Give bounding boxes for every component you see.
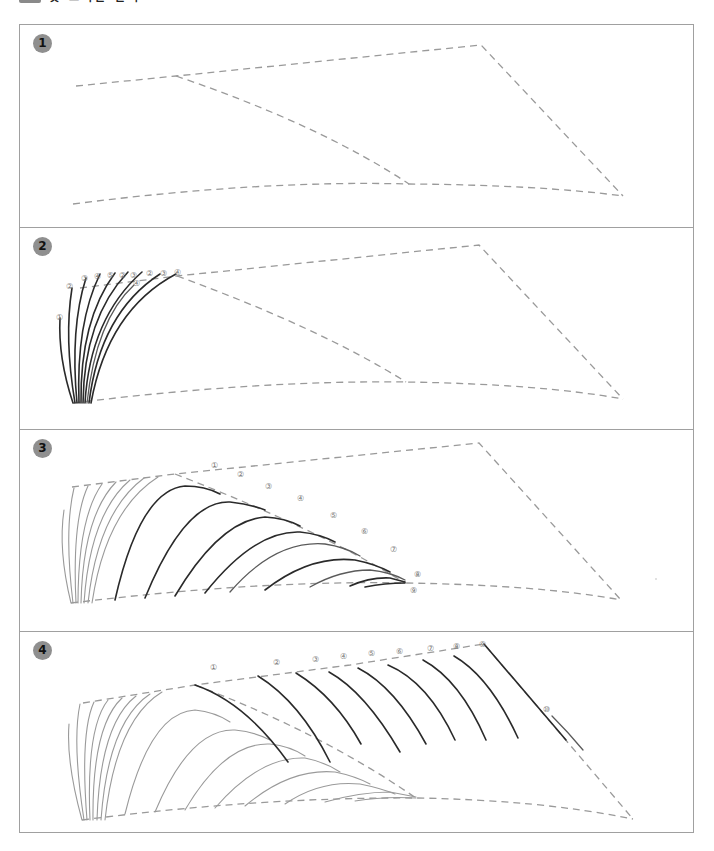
step-panel-4: 4	[20, 631, 693, 834]
stroke-order-numbers: ① ② ③ ④ ⑤ ⑥ ⑦ ⑧ ⑨	[211, 461, 421, 595]
page-header: 깃 그리는 순서	[19, 0, 141, 4]
svg-text:②: ②	[66, 282, 73, 291]
svg-text:④: ④	[297, 494, 304, 503]
svg-text:⑨: ⑨	[479, 640, 486, 649]
svg-text:②: ②	[237, 470, 244, 479]
step-panel-1: 1	[20, 25, 693, 227]
fan-strokes	[69, 692, 162, 820]
fan-strokes	[62, 477, 158, 603]
svg-text:④: ④	[94, 272, 101, 281]
svg-text:③: ③	[160, 269, 167, 278]
svg-text:②: ②	[273, 658, 280, 667]
svg-text:④: ④	[340, 652, 347, 661]
fan-strokes-diagram: ① ② ③ ④ ⑤ ② ③ ④ ② ③ ④	[20, 228, 693, 430]
svg-text:①: ①	[211, 461, 218, 470]
step-panel-3: 3	[20, 429, 693, 632]
header-title: 깃 그리는 순서	[49, 0, 141, 4]
svg-text:⑥: ⑥	[361, 527, 368, 536]
svg-text:⑥: ⑥	[396, 647, 403, 656]
step-panel-2: 2 ① ② ③ ④ ⑤ ②	[20, 227, 693, 430]
svg-text:⑦: ⑦	[390, 545, 397, 554]
svg-text:③: ③	[312, 655, 319, 664]
steps-frame: 1 2 ①	[19, 24, 694, 833]
svg-text:②: ②	[146, 269, 153, 278]
svg-text:⑤: ⑤	[107, 271, 114, 280]
arched-strokes	[125, 710, 416, 814]
svg-text:⑧: ⑧	[414, 570, 421, 579]
svg-text:①: ①	[56, 313, 63, 322]
svg-text:⑩: ⑩	[543, 705, 550, 714]
svg-text:⑨: ⑨	[410, 586, 417, 595]
svg-text:②: ②	[119, 271, 126, 280]
fan-strokes	[60, 272, 176, 403]
svg-text:④: ④	[174, 268, 181, 277]
svg-text:①: ①	[210, 663, 217, 672]
svg-text:⑤: ⑤	[368, 649, 375, 658]
svg-text:④: ④	[133, 279, 140, 288]
arched-strokes-diagram: ① ② ③ ④ ⑤ ⑥ ⑦ ⑧ ⑨	[20, 430, 693, 632]
stray-dot	[655, 578, 657, 580]
diagonal-strokes-diagram: ① ② ③ ④ ⑤ ⑥ ⑦ ⑧ ⑨ ⑩	[20, 632, 693, 834]
header-badge	[19, 0, 41, 3]
svg-text:③: ③	[81, 274, 88, 283]
svg-text:⑤: ⑤	[330, 511, 337, 520]
svg-text:⑧: ⑧	[453, 642, 460, 651]
guide-outline-diagram	[20, 25, 693, 227]
svg-text:③: ③	[265, 482, 272, 491]
diagonal-strokes	[195, 644, 583, 762]
svg-text:⑦: ⑦	[427, 644, 434, 653]
